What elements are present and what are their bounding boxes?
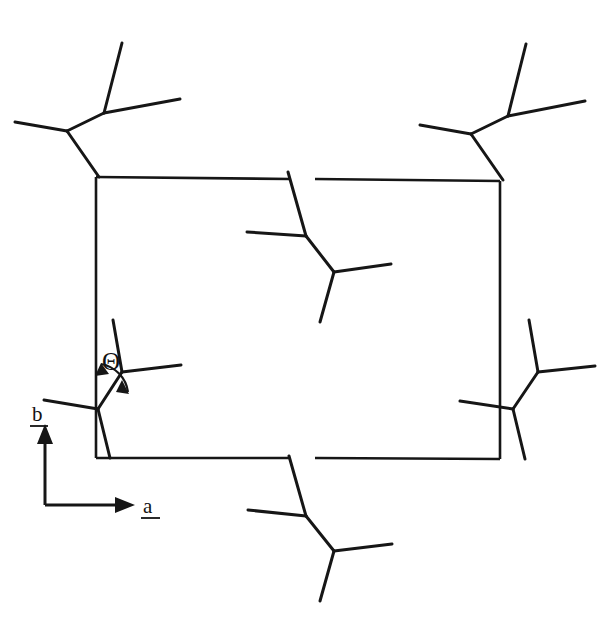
chain-branch-lower-down [320,272,334,322]
chain-bottom-right-corner [460,320,595,459]
chain-branch-upper-up [288,172,306,236]
chain-backbone [471,116,508,134]
chain-branch-upper-up [104,43,122,113]
chain-branch-lower-right [334,544,392,551]
chain-branch-lower-down [471,134,503,180]
chain-branch-upper-right [538,366,595,372]
axis-a-arrow-head [115,497,135,513]
chain-branch-upper-left [247,232,306,236]
chain-bottom-left-corner [44,320,181,458]
chain-branch-lower-down [67,131,99,177]
chain-backbone [306,236,334,272]
chain-backbone [67,113,104,131]
unit-cell-diagram-canvas: Θ b a [0,0,615,626]
chain-branch-upper-left [248,510,306,516]
chain-branch-lower-down [320,551,334,601]
chain-top-left-corner [15,43,180,177]
chain-centre [247,172,391,322]
chain-branch-lower-left [460,401,513,409]
cell-edge-bottom-right-segment [315,458,500,459]
chain-branch-upper-right [508,101,585,116]
axis-a-label: a [143,494,153,518]
chain-branch-lower-left [15,122,67,131]
chain-branch-upper-up [529,320,538,372]
chain-backbone [513,372,538,409]
chain-branch-lower-left [44,400,98,409]
unit-cell-figure: Θ b a [0,0,615,626]
cell-edge-top-left-segment [96,177,290,179]
chain-branch-lower-left [420,125,471,134]
cell-edge-top-right-segment [315,179,500,181]
theta-label: Θ [102,348,120,375]
chain-branch-lower-down [513,409,525,459]
unit-cell-rectangle [96,177,500,459]
axis-b-label: b [32,402,43,426]
chain-top-right-corner [420,44,585,180]
chain-branch-lower-down [98,409,110,458]
chain-branch-upper-up [289,456,306,516]
chain-branch-lower-right [334,264,391,272]
chain-bottom-centre [248,456,392,601]
chain-branch-upper-right [104,99,180,113]
axis-b-arrow-head [37,424,53,444]
chain-branch-upper-right [122,365,181,372]
chain-branch-upper-up [508,44,526,116]
chain-backbone [306,516,334,551]
